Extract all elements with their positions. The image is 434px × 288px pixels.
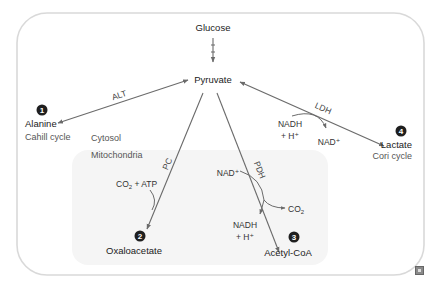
pyruvate-metabolism-diagram: Cytosol Mitochondria Glucose Pyruvate AL… — [0, 0, 434, 288]
pdh-nadh-label: NADH — [233, 220, 257, 230]
acetyl-coa-label: Acetyl-CoA — [264, 247, 312, 258]
marker-4-number: 4 — [399, 127, 404, 136]
oxaloacetate-label: Oxaloacetate — [106, 245, 162, 256]
cori-cycle-label: Cori cycle — [372, 151, 412, 161]
pdh-nad-label: NAD⁺ — [217, 168, 239, 178]
pc-co2-atp-label: CO2 + ATP — [116, 179, 158, 190]
mitochondria-label: Mitochondria — [91, 150, 143, 160]
ldh-h-label: + H⁺ — [281, 131, 299, 141]
corner-badge-icon — [415, 266, 424, 275]
lactate-label: Lactate — [381, 139, 412, 150]
glucose-label: Glucose — [196, 22, 231, 33]
cytosol-label: Cytosol — [91, 133, 121, 143]
ldh-nadh-label: NADH — [278, 119, 302, 129]
pc-atp-text: + ATP — [132, 179, 157, 189]
pdh-co-text: CO — [288, 204, 301, 214]
pc-co-text: CO — [116, 179, 129, 189]
pyruvate-label: Pyruvate — [194, 74, 232, 85]
marker-1-number: 1 — [40, 106, 45, 115]
alanine-label: Alanine — [25, 118, 57, 129]
cahill-cycle-label: Cahill cycle — [25, 132, 71, 142]
marker-3-number: 3 — [292, 233, 297, 242]
marker-2-number: 2 — [138, 232, 143, 241]
ldh-nad-label: NAD⁺ — [318, 137, 340, 147]
pdh-h-label: + H⁺ — [236, 232, 254, 242]
